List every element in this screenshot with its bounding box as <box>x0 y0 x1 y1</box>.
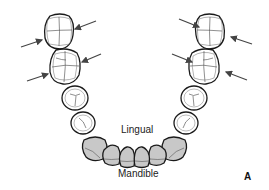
mandibular-arch-diagram <box>0 0 269 190</box>
right-lateral-incisor <box>149 145 167 165</box>
left-premolar-2 <box>62 86 88 110</box>
arrow-icon <box>82 54 101 62</box>
arrow-icon <box>231 37 252 44</box>
left-molar-1 <box>50 49 80 84</box>
left-central-incisor <box>120 147 135 168</box>
arrow-icon <box>226 72 247 80</box>
right-molar-2 <box>196 14 225 49</box>
panel-letter: A <box>244 171 251 182</box>
right-molar-1 <box>189 49 219 84</box>
mandible-label: Mandible <box>118 168 159 179</box>
arrow-icon <box>27 74 48 81</box>
left-molar-2 <box>45 14 74 49</box>
left-lateral-incisor <box>103 145 121 165</box>
right-premolar-1 <box>174 112 198 134</box>
right-central-incisor <box>134 147 149 168</box>
lingual-label: Lingual <box>121 124 153 135</box>
arrow-icon <box>75 21 96 29</box>
left-premolar-1 <box>71 112 95 134</box>
right-premolar-2 <box>181 86 207 110</box>
arrow-icon <box>172 54 192 62</box>
arrow-icon <box>21 40 42 47</box>
